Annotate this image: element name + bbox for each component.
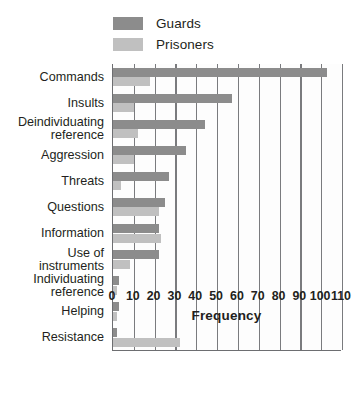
legend-swatch-prisoners [113, 38, 143, 51]
x-tick-label: 70 [251, 289, 265, 303]
x-tick-label: 80 [272, 289, 286, 303]
bar-guards [113, 94, 232, 103]
y-axis-label-helping: Helping [0, 305, 104, 318]
x-tick-label: 50 [209, 289, 223, 303]
bar-prisoners [113, 234, 161, 243]
y-axis-label-information: Information [0, 227, 104, 240]
x-tick-label: 10 [126, 289, 140, 303]
bar-group [113, 247, 341, 273]
bar-guards [113, 172, 169, 181]
y-axis-label-insults: Insults [0, 97, 104, 110]
bar-prisoners [113, 260, 130, 269]
bar-prisoners [113, 155, 134, 164]
bar-group [113, 142, 341, 168]
x-tick-label: 100 [310, 289, 331, 303]
bar-group [113, 168, 341, 194]
x-tick-label: 40 [188, 289, 202, 303]
y-axis-label-deindividuating-reference: Deindividuatingreference [0, 116, 104, 142]
bar-guards [113, 68, 327, 77]
bar-guards [113, 250, 159, 259]
y-axis-label-resistance: Resistance [0, 331, 104, 344]
x-tick-label: 20 [147, 289, 161, 303]
y-axis-label-questions: Questions [0, 201, 104, 214]
x-tick-label: 110 [331, 289, 351, 303]
legend-item-guards: Guards [113, 14, 273, 33]
bar-prisoners [113, 181, 121, 190]
x-tick-label: 60 [230, 289, 244, 303]
y-axis-label-use-of-instruments: Use ofinstruments [0, 247, 104, 273]
x-axis-ticks: 0102030405060708090100110 [112, 289, 352, 307]
x-axis-title: Frequency [112, 308, 341, 323]
bar-group [113, 194, 341, 220]
bar-group [113, 221, 341, 247]
bar-guards [113, 146, 186, 155]
bar-guards [113, 224, 159, 233]
y-axis-label-threats: Threats [0, 175, 104, 188]
bar-prisoners [113, 77, 150, 86]
y-axis-label-commands: Commands [0, 71, 104, 84]
x-tick-label: 0 [109, 289, 116, 303]
bar-guards [113, 276, 119, 285]
y-axis-label-individuating-reference: Individuatingreference [0, 273, 104, 299]
bar-prisoners [113, 103, 134, 112]
bar-guards [113, 120, 205, 129]
x-tick-label: 90 [292, 289, 306, 303]
bar-group [113, 90, 341, 116]
y-axis-category-labels: CommandsInsultsDeindividuatingreferenceA… [0, 64, 110, 351]
legend-label-guards: Guards [156, 17, 201, 31]
legend-swatch-guards [113, 17, 143, 30]
bar-guards [113, 198, 165, 207]
legend-label-prisoners: Prisoners [156, 38, 214, 52]
bar-group [113, 325, 341, 351]
bar-guards [113, 328, 117, 337]
bar-prisoners [113, 338, 180, 347]
bar-prisoners [113, 129, 138, 138]
bar-group [113, 116, 341, 142]
y-axis-label-aggression: Aggression [0, 149, 104, 162]
chart-legend: Guards Prisoners [113, 14, 273, 56]
bar-group [113, 64, 341, 90]
bar-prisoners [113, 207, 159, 216]
gridline [342, 64, 343, 350]
legend-item-prisoners: Prisoners [113, 35, 273, 54]
x-tick-label: 30 [168, 289, 182, 303]
